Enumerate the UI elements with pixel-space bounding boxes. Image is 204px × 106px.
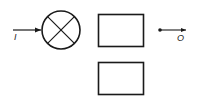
multiplier-circle-cross-icon: [42, 11, 80, 49]
block-bottom: [99, 63, 144, 95]
input-label: I: [14, 32, 17, 42]
output-terminal: [158, 28, 186, 32]
output-label: O: [177, 33, 184, 43]
block-diagram: I O: [0, 0, 204, 106]
block-top: [99, 15, 144, 47]
